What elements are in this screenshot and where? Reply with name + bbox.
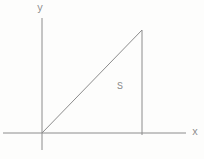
y-axis-label: y (37, 4, 43, 14)
diagram-canvas (0, 0, 204, 159)
triangle-diagram: y x S (0, 0, 204, 159)
region-label: S (117, 82, 123, 92)
hypotenuse-line (42, 30, 142, 133)
x-axis-label: x (192, 128, 198, 138)
